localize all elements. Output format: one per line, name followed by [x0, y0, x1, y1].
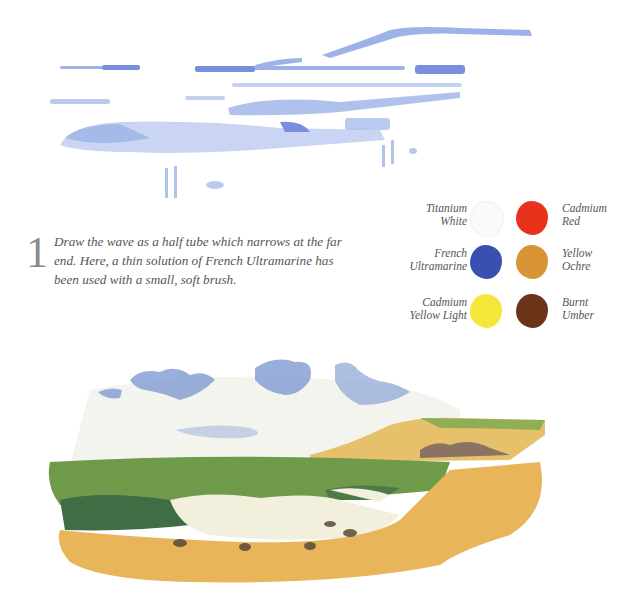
- color-label-yellow-ochre: YellowOchre: [562, 247, 632, 273]
- step-text: Draw the wave as a half tube which narro…: [54, 234, 342, 287]
- swatch-french-ultramarine: [470, 245, 502, 279]
- color-label-titanium-white: TitaniumWhite: [387, 202, 467, 228]
- color-label-cadmium-yellow-light: CadmiumYellow Light: [387, 296, 467, 322]
- palette-row-1: TitaniumWhite CadmiumRed: [400, 198, 622, 242]
- wave-sketch-illustration: [40, 20, 540, 200]
- paint-palette: TitaniumWhite CadmiumRed FrenchUltramari…: [400, 192, 622, 342]
- swatch-yellow-ochre: [516, 245, 548, 279]
- color-label-french-ultramarine: FrenchUltramarine: [387, 247, 467, 273]
- swatch-cadmium-yellow-light: [470, 294, 502, 328]
- color-label-cadmium-red: CadmiumRed: [562, 202, 632, 228]
- swatch-burnt-umber: [516, 294, 548, 328]
- seascape-painting-illustration: [40, 350, 580, 590]
- palette-row-2: FrenchUltramarine YellowOchre: [400, 243, 622, 287]
- color-label-burnt-umber: BurntUmber: [562, 296, 632, 322]
- step-caption: 1 Draw the wave as a half tube which nar…: [22, 232, 342, 289]
- swatch-titanium-white: [470, 201, 504, 237]
- swatch-cadmium-red: [516, 201, 548, 235]
- palette-row-3: CadmiumYellow Light BurntUmber: [400, 292, 622, 336]
- step-number: 1: [26, 234, 48, 272]
